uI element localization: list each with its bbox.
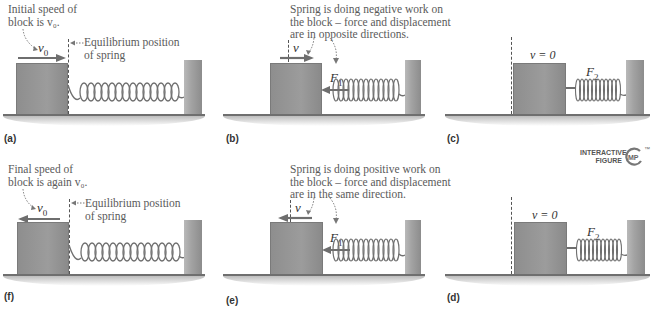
wall (627, 220, 645, 275)
floor-shadow (3, 276, 205, 286)
panel-a: Initial speed of block is v₀. v0 Equilib… (0, 0, 215, 155)
block (270, 222, 323, 275)
wall (626, 60, 644, 115)
floor-shadow (445, 116, 650, 126)
note-line: the block – force and displacement (290, 176, 451, 189)
block (270, 63, 322, 115)
floor-shadow (445, 276, 650, 286)
pointer-arrow-icon (328, 38, 348, 66)
badge-line: INTERACTIVE (580, 149, 622, 157)
block (17, 222, 69, 275)
block (16, 63, 68, 115)
negative-work-note: Spring is doing negative work on the blo… (290, 3, 451, 41)
note-line: Equilibrium position (85, 197, 181, 210)
positive-work-note: Spring is doing positive work on the blo… (290, 163, 451, 201)
wall (184, 60, 202, 115)
velocity-label: v = 0 (532, 208, 557, 223)
floor-shadow (223, 116, 425, 126)
spring-compressed-icon (330, 76, 410, 106)
note-line: of spring (85, 210, 181, 223)
spring-relaxed-icon (68, 80, 188, 110)
panel-label: (b) (226, 133, 239, 144)
pointer-arrow-icon (328, 198, 348, 226)
panel-label: (a) (4, 133, 16, 144)
spring-compressed-icon (330, 236, 410, 266)
panel-d: v = 0 F2 (d) (440, 160, 652, 315)
equilibrium-line (511, 197, 512, 274)
floor-shadow (223, 276, 425, 286)
velocity-arrow-right-icon (18, 53, 68, 63)
panel-label: (d) (447, 292, 460, 303)
final-speed-note: Final speed of block is again v₀. (8, 163, 87, 188)
block (513, 63, 566, 115)
panel-f: Final speed of block is again v₀. v0 Equ… (0, 160, 215, 315)
panel-c: v = 0 F2 (c) (440, 0, 652, 155)
velocity-label: v = 0 (530, 48, 555, 63)
spring-max-compressed-icon (566, 77, 628, 107)
note-line: Initial speed of (8, 3, 77, 16)
panel-e: Spring is doing positive work on the blo… (220, 160, 435, 315)
equilibrium-note: Equilibrium position of spring (85, 197, 181, 222)
velocity-arrow-right-icon (280, 53, 316, 63)
wall (405, 220, 421, 275)
note-line: Spring is doing negative work on (290, 3, 451, 16)
panel-label: (f) (4, 291, 14, 302)
note-line: Spring is doing positive work on (290, 163, 451, 176)
equilibrium-line (511, 37, 512, 114)
panel-b: Spring is doing negative work on the blo… (220, 0, 435, 155)
panel-label: (e) (226, 295, 238, 306)
note-line: the block – force and displacement (290, 16, 451, 29)
note-line: Equilibrium position (84, 36, 180, 49)
spring-relaxed-icon (69, 240, 189, 270)
wall (405, 60, 421, 115)
trademark: ™ (644, 146, 650, 152)
block (514, 222, 567, 275)
spring-max-compressed-icon (567, 237, 629, 267)
note-line: of spring (84, 49, 180, 62)
wall (184, 220, 202, 275)
panel-label: (c) (447, 133, 459, 144)
equilibrium-note: Equilibrium position of spring (84, 36, 180, 61)
floor-shadow (3, 116, 205, 126)
note-line: Final speed of (8, 163, 87, 176)
initial-speed-note: Initial speed of block is v₀. (8, 3, 77, 28)
